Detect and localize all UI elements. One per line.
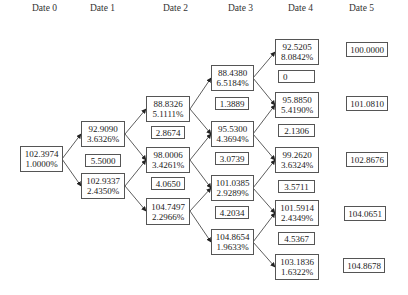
node-date4-1: 95.8850 5.4190% [275, 92, 319, 118]
node-date5-0: 100.0000 [346, 42, 388, 57]
node-date1-0: 92.9090 3.6326% [81, 121, 125, 147]
node-price: 102.8676 [350, 155, 384, 165]
coupon-value: 4.5367 [284, 234, 309, 244]
node-date4-4: 103.1836 1.6322% [275, 254, 319, 280]
node-price: 102.9337 [86, 176, 120, 186]
node-price: 99.2620 [282, 150, 311, 160]
node-rate: 5.4190% [281, 105, 313, 115]
node-date3-0: 88.4380 6.5184% [211, 65, 254, 91]
node-price: 92.9090 [88, 124, 117, 134]
node-date3-3: 104.8654 1.9633% [211, 229, 254, 255]
node-rate: 1.0000% [25, 159, 57, 169]
coupon-date4-2: 3.5711 [278, 180, 315, 193]
node-date2-1: 98.0006 3.4261% [146, 147, 190, 173]
coupon-value: 4.2034 [220, 208, 245, 218]
coupon-value: 3.5711 [284, 182, 308, 192]
node-price: 104.8678 [347, 261, 381, 271]
coupon-date4-1: 2.1306 [278, 124, 315, 137]
coupon-date4-0: 0 [278, 70, 315, 83]
node-price: 95.8850 [282, 95, 311, 105]
node-date4-3: 101.5914 2.4349% [275, 200, 319, 226]
coupon-date3-1: 3.0739 [215, 152, 249, 165]
node-rate: 2.4349% [281, 213, 313, 223]
coupon-date2-0: 2.8674 [151, 126, 185, 139]
node-rate: 2.9289% [216, 188, 248, 198]
node-rate: 2.2966% [152, 212, 184, 222]
coupon-date2-1: 4.0650 [151, 177, 185, 190]
coupon-date1-0: 5.5000 [85, 154, 121, 167]
node-date4-2: 99.2620 3.6324% [275, 147, 319, 173]
node-rate: 3.6326% [87, 134, 119, 144]
node-rate: 8.0842% [281, 52, 313, 62]
node-date5-2: 102.8676 [346, 152, 388, 167]
node-price: 104.0651 [348, 209, 382, 219]
node-price: 102.3974 [25, 149, 59, 159]
coupon-value: 2.8674 [156, 128, 181, 138]
coupon-value: 2.1306 [284, 126, 309, 136]
node-date5-4: 104.8678 [343, 258, 385, 273]
node-price: 95.5300 [218, 124, 247, 134]
node-date2-0: 88.8326 5.1111% [146, 96, 190, 122]
coupon-value: 1.3889 [220, 99, 245, 109]
node-price: 88.4380 [218, 68, 247, 78]
node-date1-1: 102.9337 2.4350% [81, 173, 125, 199]
node-date3-2: 101.0385 2.9289% [211, 175, 254, 201]
node-rate: 3.6324% [281, 160, 313, 170]
node-rate: 2.4350% [87, 186, 119, 196]
node-price: 88.8326 [153, 99, 182, 109]
node-date5-3: 104.0651 [344, 206, 386, 221]
node-date3-1: 95.5300 4.3694% [211, 121, 254, 147]
node-price: 101.0810 [350, 99, 384, 109]
node-price: 103.1836 [280, 257, 314, 267]
node-price: 101.5914 [280, 203, 314, 213]
coupon-value: 4.0650 [156, 179, 181, 189]
coupon-value: 3.0739 [220, 154, 245, 164]
node-price: 98.0006 [153, 150, 182, 160]
node-date2-2: 104.7497 2.2966% [146, 198, 190, 225]
coupon-date3-0: 1.3889 [215, 97, 249, 110]
node-rate: 1.6322% [281, 267, 313, 277]
coupon-value: 0 [283, 72, 288, 82]
node-price: 101.0385 [216, 178, 250, 188]
node-price: 104.8654 [216, 232, 250, 242]
coupon-date3-2: 4.2034 [215, 206, 249, 219]
node-rate: 6.5184% [216, 78, 248, 88]
coupon-date4-3: 4.5367 [278, 232, 315, 245]
node-price: 100.0000 [350, 45, 384, 55]
node-date5-1: 101.0810 [346, 96, 388, 111]
node-date0-0: 102.3974 1.0000% [20, 146, 63, 172]
node-rate: 3.4261% [152, 160, 184, 170]
node-rate: 5.1111% [152, 109, 183, 119]
node-price: 92.5205 [282, 42, 311, 52]
node-price: 104.7497 [151, 202, 185, 212]
node-rate: 4.3694% [216, 134, 248, 144]
node-rate: 1.9633% [216, 242, 248, 252]
node-date4-0: 92.5205 8.0842% [275, 39, 319, 65]
coupon-value: 5.5000 [91, 156, 116, 166]
